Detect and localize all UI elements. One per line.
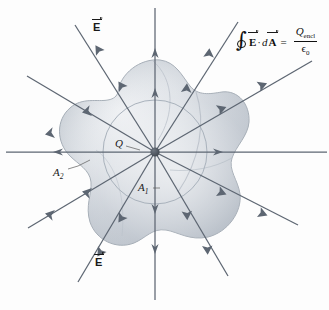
arrowhead-120deg-outer xyxy=(95,45,104,56)
field-label-top-text: E xyxy=(93,22,100,33)
field-label-bottom-text: E xyxy=(95,257,102,268)
outer-surface-label-subscript: 2 xyxy=(60,172,64,181)
arrowhead-300deg-outer xyxy=(202,245,213,254)
arrowhead-150deg-outer xyxy=(45,127,55,138)
outer-surface-label: A2 xyxy=(53,167,63,181)
equation-dot-operator: · xyxy=(257,36,261,48)
charge-label: Q xyxy=(115,138,123,149)
gauss-law-equation: ∫ E · d A = Qencl ϵ0 xyxy=(236,26,317,57)
charge-label-text: Q xyxy=(115,137,123,149)
field-label-top: E xyxy=(93,22,100,33)
field-label-bottom: E xyxy=(95,257,102,268)
point-charge-dot xyxy=(150,147,159,156)
inner-surface-label-subscript: 1 xyxy=(145,187,149,196)
outer-surface-label-text: A xyxy=(53,166,60,178)
equation-numerator-symbol: Q xyxy=(296,25,304,37)
arrowhead-60deg-outer xyxy=(203,48,214,58)
inner-surface-label: A1 xyxy=(138,182,148,196)
equation-differential: d xyxy=(262,36,268,48)
equation-field-symbol: E xyxy=(249,36,256,48)
inner-surface-label-text: A xyxy=(138,181,145,193)
arrowhead-210deg-outer xyxy=(45,210,55,221)
equation-denominator-subscript: 0 xyxy=(306,49,310,57)
equation-denominator: ϵ0 xyxy=(294,41,318,57)
gauss-law-figure: E E Q A1 A2 ∫ E · d A = Qencl ϵ0 xyxy=(0,0,329,310)
integral-loop-ring xyxy=(237,40,246,49)
equation-numerator: Qencl xyxy=(294,26,318,41)
equation-numerator-subscript: encl xyxy=(304,32,316,40)
equation-equals-sign: = xyxy=(280,36,286,48)
equation-fraction: Qencl ϵ0 xyxy=(294,26,318,57)
contour-integral-icon: ∫ xyxy=(236,32,247,50)
equation-area-symbol: A xyxy=(268,36,276,48)
